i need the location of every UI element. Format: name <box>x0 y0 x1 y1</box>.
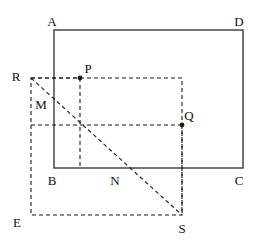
vertex-label-m: M <box>35 98 47 111</box>
vertex-label-n: N <box>110 174 119 187</box>
point-marker-q <box>180 123 185 128</box>
vertex-label-q: Q <box>184 109 193 122</box>
vertex-label-d: D <box>234 15 243 28</box>
geometry-diagram: ADBCRMNESPQ <box>0 0 255 241</box>
vertex-label-b: B <box>48 174 57 187</box>
vertex-label-a: A <box>47 15 56 28</box>
point-marker-group <box>78 76 185 128</box>
vertex-label-p: P <box>84 62 91 75</box>
solid-shape-group <box>54 30 243 168</box>
vertex-label-s: S <box>178 222 185 235</box>
point-marker-p <box>78 76 83 81</box>
vertex-label-e: E <box>13 216 21 229</box>
vertex-label-c: C <box>235 174 244 187</box>
diagram-canvas <box>0 0 255 241</box>
vertex-label-r: R <box>12 70 21 83</box>
rectangle-abcd <box>54 30 243 168</box>
